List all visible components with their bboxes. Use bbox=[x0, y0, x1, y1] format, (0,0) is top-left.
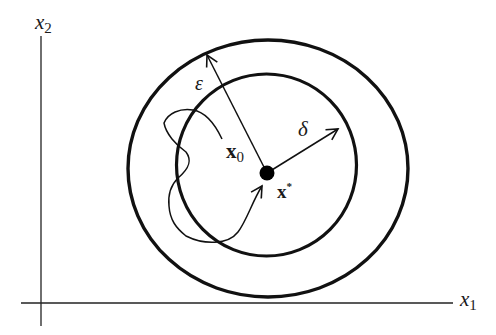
diagram-canvas bbox=[0, 0, 496, 335]
equilibrium-point bbox=[260, 166, 275, 181]
y-axis-label: x2 bbox=[35, 12, 52, 36]
x-axis-label: x1 bbox=[460, 289, 477, 313]
equilibrium-label: x* bbox=[277, 181, 292, 201]
initial-state-label: x0 bbox=[226, 141, 244, 165]
epsilon-label: ε bbox=[195, 73, 203, 93]
delta-label: δ bbox=[298, 119, 308, 140]
stability-diagram: x2 x1 ε δ x0 x* bbox=[0, 0, 496, 335]
delta-circle bbox=[177, 74, 357, 256]
